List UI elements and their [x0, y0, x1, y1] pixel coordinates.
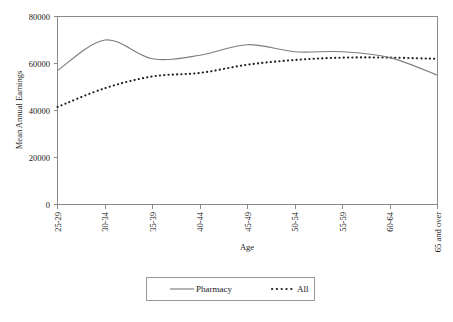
- chart-figure: 80000 60000 40000 20000 0 Mean Annual Ea…: [0, 0, 453, 322]
- y-tick-label-0: 0: [46, 200, 50, 210]
- y-tick-label-40000: 40000: [29, 106, 50, 116]
- chart-svg: 80000 60000 40000 20000 0 Mean Annual Ea…: [0, 0, 453, 322]
- x-tick-label-45-49: 45-49: [243, 212, 253, 232]
- y-tick-label-60000: 60000: [29, 59, 50, 69]
- x-tick-label-40-44: 40-44: [195, 211, 205, 232]
- chart-legend: Pharmacy All: [147, 278, 315, 301]
- x-axis-title: Age: [240, 242, 254, 252]
- legend-label-all: All: [297, 284, 309, 294]
- x-tick-label-55-59: 55-59: [338, 212, 348, 232]
- y-tick-labels: 80000 60000 40000 20000 0: [29, 12, 50, 210]
- x-tick-label-50-54: 50-54: [290, 211, 300, 232]
- series-line-pharmacy: [58, 40, 438, 75]
- x-tick-label-30-34: 30-34: [100, 211, 110, 232]
- y-tick-marks: [54, 17, 58, 205]
- x-tick-label-60-64: 60-64: [385, 211, 395, 232]
- y-tick-label-80000: 80000: [29, 12, 50, 22]
- x-tick-label-25-29: 25-29: [53, 212, 63, 232]
- legend-label-pharmacy: Pharmacy: [196, 284, 232, 294]
- x-tick-label-65-and-over: 65 and over: [433, 212, 443, 252]
- x-tick-label-35-39: 35-39: [148, 212, 158, 232]
- series-line-all: [58, 57, 438, 107]
- x-tick-marks: [58, 205, 438, 209]
- y-tick-label-20000: 20000: [29, 153, 50, 163]
- y-axis-title: Mean Annual Earnings: [14, 71, 24, 149]
- chart-series-group: [58, 40, 438, 107]
